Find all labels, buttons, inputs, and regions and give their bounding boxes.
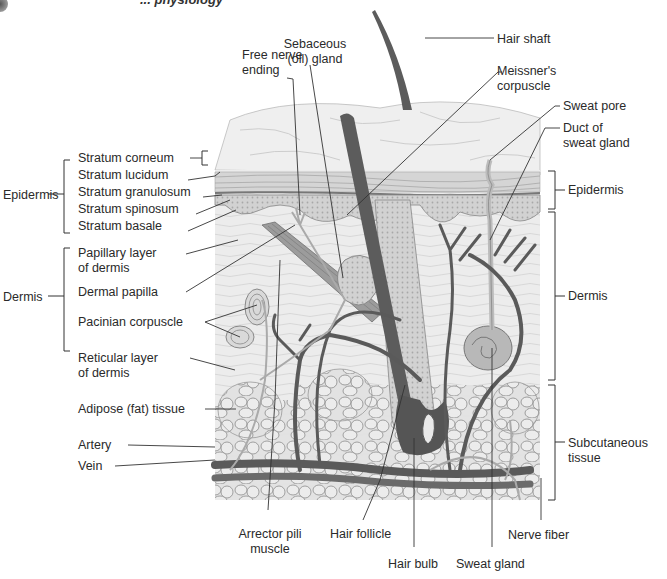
label-stratum-corneum: Stratum corneum [78, 151, 174, 166]
label-hair-shaft: Hair shaft [497, 32, 551, 47]
label-sweat-gland: Sweat gland [456, 557, 525, 572]
label-dermal-papilla: Dermal papilla [78, 285, 158, 300]
label-meissner-2: corpuscle [497, 79, 551, 94]
hair-shaft [372, 10, 412, 110]
label-papillary-layer-1: Papillary layer [78, 246, 157, 261]
label-reticular-layer-1: Reticular layer [78, 351, 158, 366]
label-arrector-1: Arrector pili [232, 527, 308, 542]
label-dermis-right: Dermis [568, 289, 608, 304]
label-reticular-layer-2: of dermis [78, 366, 129, 381]
label-vein: Vein [78, 459, 102, 474]
label-arrector-2: muscle [232, 542, 308, 557]
label-hair-follicle: Hair follicle [330, 527, 391, 542]
label-epidermis-right: Epidermis [568, 183, 624, 198]
label-sebaceous-1: Sebaceous [279, 37, 351, 52]
label-duct-1: Duct of [563, 121, 603, 136]
label-subcutaneous-2: tissue [568, 451, 601, 466]
label-adipose-tissue: Adipose (fat) tissue [78, 402, 185, 417]
label-sweat-pore: Sweat pore [563, 99, 626, 114]
label-stratum-spinosum: Stratum spinosum [78, 202, 179, 217]
label-meissner-1: Meissner's [497, 64, 556, 79]
label-stratum-basale: Stratum basale [78, 219, 162, 234]
label-dermis-group: Dermis [3, 290, 43, 305]
label-free-nerve-2: ending [242, 63, 280, 78]
label-duct-2: sweat gland [563, 136, 630, 151]
label-pacinian-corpuscle: Pacinian corpuscle [78, 315, 183, 330]
label-sebaceous-2: (oil) gland [279, 52, 351, 67]
label-artery: Artery [78, 438, 111, 453]
label-stratum-granulosum: Stratum granulosum [78, 185, 191, 200]
sweat-gland [464, 326, 512, 370]
label-epidermis-group: Epidermis [3, 188, 59, 203]
label-papillary-layer-2: of dermis [78, 261, 129, 276]
label-stratum-lucidum: Stratum lucidum [78, 168, 168, 183]
label-nerve-fiber: Nerve fiber [508, 528, 569, 543]
label-hair-bulb: Hair bulb [388, 557, 438, 572]
label-subcutaneous-1: Subcutaneous [568, 436, 648, 451]
